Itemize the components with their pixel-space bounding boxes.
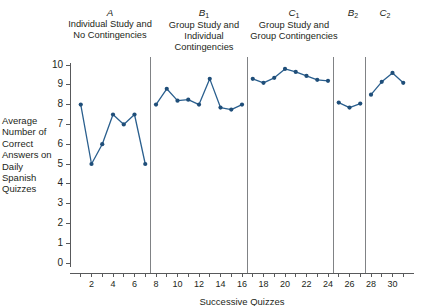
y-tick-label: 7 bbox=[57, 118, 63, 129]
data-point bbox=[143, 162, 147, 166]
y-tick-label: 4 bbox=[57, 177, 63, 188]
y-tick-label: 9 bbox=[57, 78, 63, 89]
data-point bbox=[272, 76, 276, 80]
data-point bbox=[132, 112, 136, 116]
data-point bbox=[337, 101, 341, 105]
data-point bbox=[111, 112, 115, 116]
y-tick-label: 6 bbox=[57, 138, 63, 149]
data-point bbox=[240, 103, 244, 107]
data-point bbox=[197, 103, 201, 107]
x-tick-label: 10 bbox=[172, 279, 182, 289]
y-axis-ticks: 012345678910 bbox=[52, 59, 70, 268]
y-tick-label: 1 bbox=[57, 237, 63, 248]
y-tick-label: 3 bbox=[57, 197, 63, 208]
y-tick-label: 8 bbox=[57, 98, 63, 109]
x-tick-label: 14 bbox=[215, 279, 225, 289]
data-point bbox=[390, 71, 394, 75]
y-tick-label: 0 bbox=[57, 257, 63, 268]
data-point-markers bbox=[79, 67, 406, 166]
data-point bbox=[380, 80, 384, 84]
data-point bbox=[175, 99, 179, 103]
data-point bbox=[100, 142, 104, 146]
x-tick-label: 12 bbox=[194, 279, 204, 289]
data-point bbox=[294, 70, 298, 74]
data-point bbox=[401, 81, 405, 85]
data-point bbox=[315, 78, 319, 82]
data-point bbox=[122, 122, 126, 126]
y-tick-label: 10 bbox=[52, 59, 64, 70]
data-point bbox=[165, 87, 169, 91]
x-axis-ticks: 24681012141618202224262830 bbox=[81, 273, 404, 289]
data-point bbox=[347, 105, 351, 109]
x-tick-label: 30 bbox=[387, 279, 397, 289]
x-tick-label: 26 bbox=[344, 279, 354, 289]
x-tick-label: 4 bbox=[110, 279, 115, 289]
x-tick-label: 18 bbox=[258, 279, 268, 289]
data-point bbox=[369, 93, 373, 97]
data-point bbox=[186, 98, 190, 102]
data-point bbox=[208, 77, 212, 81]
x-tick-label: 28 bbox=[366, 279, 376, 289]
data-point bbox=[251, 77, 255, 81]
data-point bbox=[79, 103, 83, 107]
data-point bbox=[218, 105, 222, 109]
chart-figure: Average Number of Correct Answers on Dai… bbox=[0, 0, 427, 306]
x-tick-label: 2 bbox=[89, 279, 94, 289]
y-tick-label: 5 bbox=[57, 158, 63, 169]
data-point bbox=[304, 74, 308, 78]
x-tick-label: 22 bbox=[301, 279, 311, 289]
data-point bbox=[229, 107, 233, 111]
x-tick-label: 8 bbox=[153, 279, 158, 289]
data-point bbox=[358, 102, 362, 106]
x-tick-label: 20 bbox=[280, 279, 290, 289]
data-point bbox=[326, 79, 330, 83]
x-axis-title: Successive Quizzes bbox=[199, 296, 284, 306]
data-point bbox=[154, 103, 158, 107]
chart-canvas: 012345678910 24681012141618202224262830 … bbox=[0, 0, 427, 306]
data-point bbox=[261, 81, 265, 85]
x-tick-label: 16 bbox=[237, 279, 247, 289]
x-tick-label: 6 bbox=[132, 279, 137, 289]
data-series-line bbox=[81, 69, 404, 164]
data-point bbox=[283, 67, 287, 71]
y-tick-label: 2 bbox=[57, 217, 63, 228]
data-point bbox=[89, 162, 93, 166]
x-tick-label: 24 bbox=[323, 279, 333, 289]
phase-dividers bbox=[151, 57, 366, 273]
